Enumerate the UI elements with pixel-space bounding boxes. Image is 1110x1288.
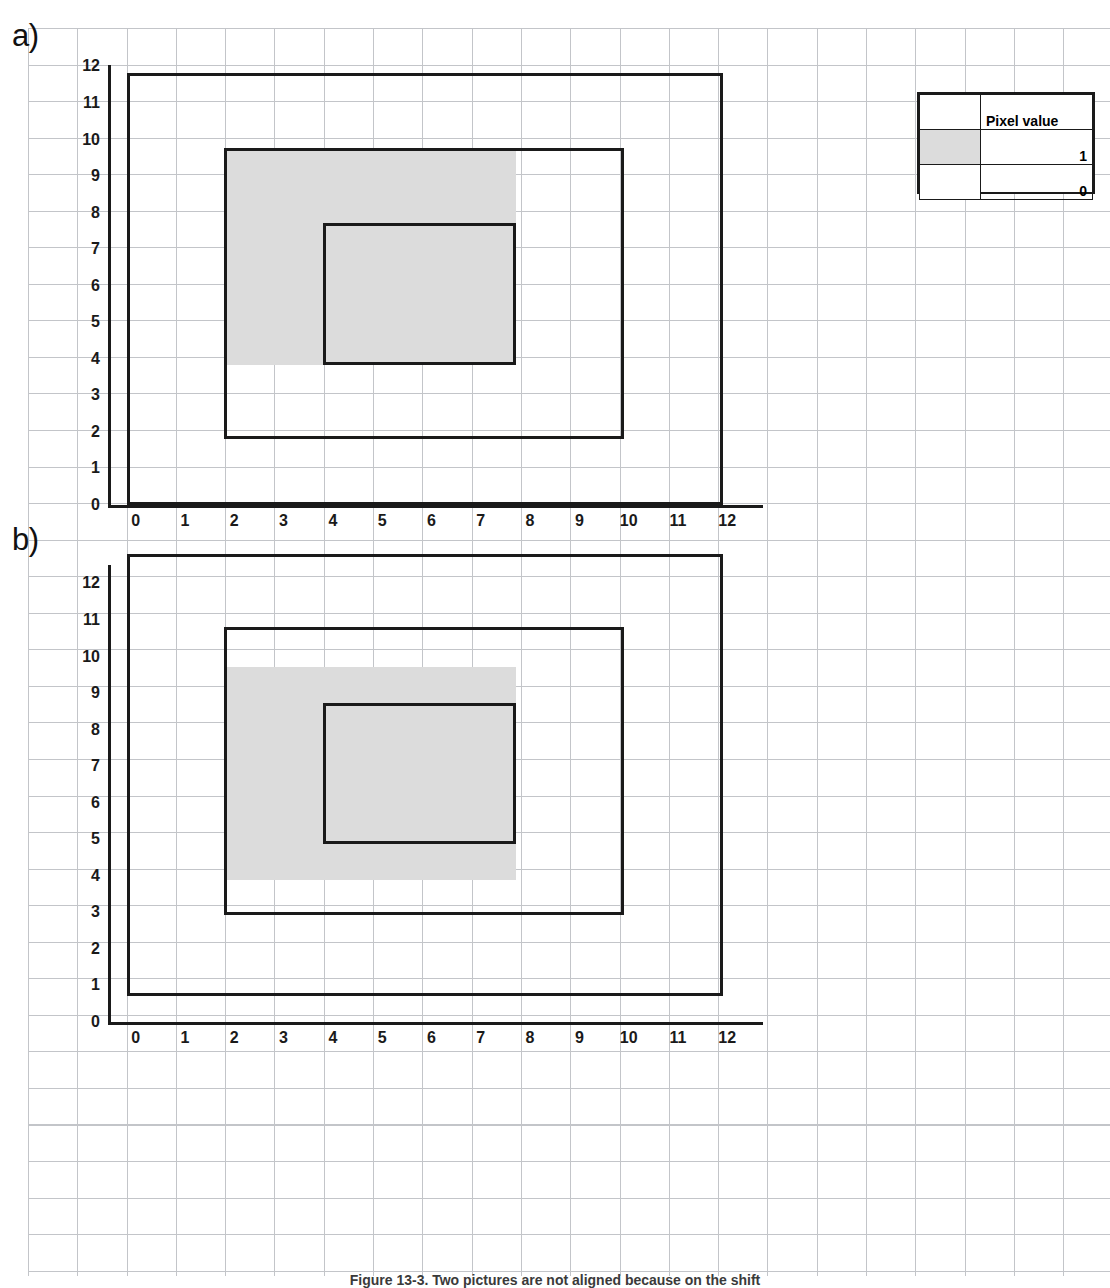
legend-value-one: 1 [981,130,1093,165]
panel-b-y-tick: 10 [66,649,100,665]
panel-b-x-tick: 2 [217,1030,251,1046]
legend-header-swatch-cell [920,95,981,130]
panel-b-x-tick: 5 [365,1030,399,1046]
legend-row-one: 1 [920,130,1093,165]
panel-b-y-tick: 0 [66,1014,100,1030]
panel-a-inner-rectangle [323,223,516,366]
panel-b-x-tick: 6 [414,1030,448,1046]
legend-table: Pixel value 1 0 [919,94,1093,200]
panel-b-x-tick: 1 [168,1030,202,1046]
panel-b-x-tick: 0 [119,1030,153,1046]
panel-b-y-tick: 5 [66,831,100,847]
panel-b-x-tick: 9 [562,1030,596,1046]
panel-b-inner-rectangle [323,703,516,843]
panel-b-y-tick: 3 [66,904,100,920]
panel-b-y-tick: 6 [66,795,100,811]
legend-header-row: Pixel value [920,95,1093,130]
panel-a-y-tick: 8 [66,205,100,221]
panel-a-y-axis-line [108,65,111,507]
legend-swatch-white [920,165,981,200]
panel-b-x-tick: 11 [661,1030,695,1046]
legend-header-label: Pixel value [981,95,1093,130]
legend-swatch-gray [920,130,981,165]
panel-a-y-tick: 3 [66,387,100,403]
panel-b-x-tick: 3 [267,1030,301,1046]
panel-b-y-tick: 9 [66,685,100,701]
panel-b-y-tick: 11 [66,612,100,628]
panel-b-x-tick: 7 [464,1030,498,1046]
panel-b-y-tick: 7 [66,758,100,774]
panel-a-y-tick: 5 [66,314,100,330]
panel-b-y-tick: 2 [66,941,100,957]
panel-b-x-axis-line [108,1022,763,1025]
pixel-value-legend: Pixel value 1 0 [917,92,1095,194]
panel-a-y-tick: 10 [66,132,100,148]
panel-b-y-tick: 4 [66,868,100,884]
panel-a-y-tick: 4 [66,351,100,367]
panel-a-y-tick: 9 [66,168,100,184]
panel-b-x-tick: 8 [513,1030,547,1046]
figure-caption: Figure 13-3. Two pictures are not aligne… [0,1272,1110,1288]
panel-a-y-tick: 1 [66,460,100,476]
panel-a-y-tick: 6 [66,278,100,294]
panel-b-tag: b) [12,522,39,558]
panel-b-y-axis-line [108,565,111,1025]
panel-b-y-tick: 8 [66,722,100,738]
panel-a-y-tick: 2 [66,424,100,440]
legend-value-zero: 0 [981,165,1093,200]
legend-row-zero: 0 [920,165,1093,200]
panel-b-y-tick: 12 [66,575,100,591]
panel-b-x-tick: 10 [612,1030,646,1046]
panel-b-y-tick: 1 [66,977,100,993]
panel-a-tag: a) [12,18,39,54]
panel-a-x-axis-line [108,505,763,508]
panel-a-y-tick: 11 [66,95,100,111]
panel-a-y-tick: 12 [66,58,100,74]
panel-b-x-tick: 4 [316,1030,350,1046]
panel-a: a) 1211109876543210 0123456789101112 [0,0,820,540]
panel-b-x-tick: 12 [710,1030,744,1046]
panel-a-y-tick: 7 [66,241,100,257]
panel-b: b) 1211109876543210 0123456789101112 [0,510,820,1055]
